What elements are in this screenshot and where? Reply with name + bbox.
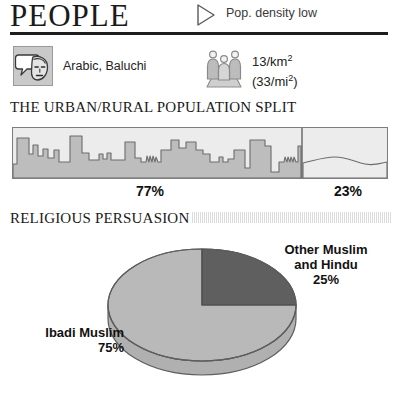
infographic-page: PEOPLE Pop. density low Arabic, Baluchi <box>0 0 396 394</box>
pie-label-right-line3: 25% <box>313 272 339 287</box>
density-imperial: (33/mi <box>252 75 288 90</box>
rural-percentage-label: 23% <box>326 183 370 199</box>
three-people-icon <box>202 46 246 88</box>
religion-title-hatch-bar <box>192 212 392 223</box>
religion-section-title: RELIGIOUS PERSUASION <box>10 210 189 227</box>
pop-density-legend-label: Pop. density low <box>226 6 317 20</box>
header-divider <box>10 32 388 35</box>
urban-rural-section-title: THE URBAN/RURAL POPULATION SPLIT <box>10 99 296 116</box>
population-density-value: 13/km2 (33/mi2) <box>252 50 297 91</box>
page-title: PEOPLE <box>10 0 130 34</box>
pie-label-right-line2: and Hindu <box>294 257 358 272</box>
pie-label-ibadi-muslim: Ibadi Muslim 75% <box>8 325 124 355</box>
pie-label-right-line1: Other Muslim <box>284 242 367 257</box>
urban-percentage-label: 77% <box>128 183 172 199</box>
languages-label: Arabic, Baluchi <box>63 59 146 73</box>
pie-label-left-line1: Ibadi Muslim <box>45 325 124 340</box>
urban-rural-split-chart <box>12 127 388 179</box>
speaking-head-icon <box>13 46 53 86</box>
density-imperial-close: ) <box>293 75 297 90</box>
pie-label-other-muslim-hindu: Other Muslim and Hindu 25% <box>262 242 390 287</box>
pie-label-left-line2: 75% <box>98 340 124 355</box>
density-metric-exponent: 2 <box>287 53 292 63</box>
triangle-right-icon <box>196 3 216 27</box>
density-metric: 13/km <box>252 54 287 69</box>
